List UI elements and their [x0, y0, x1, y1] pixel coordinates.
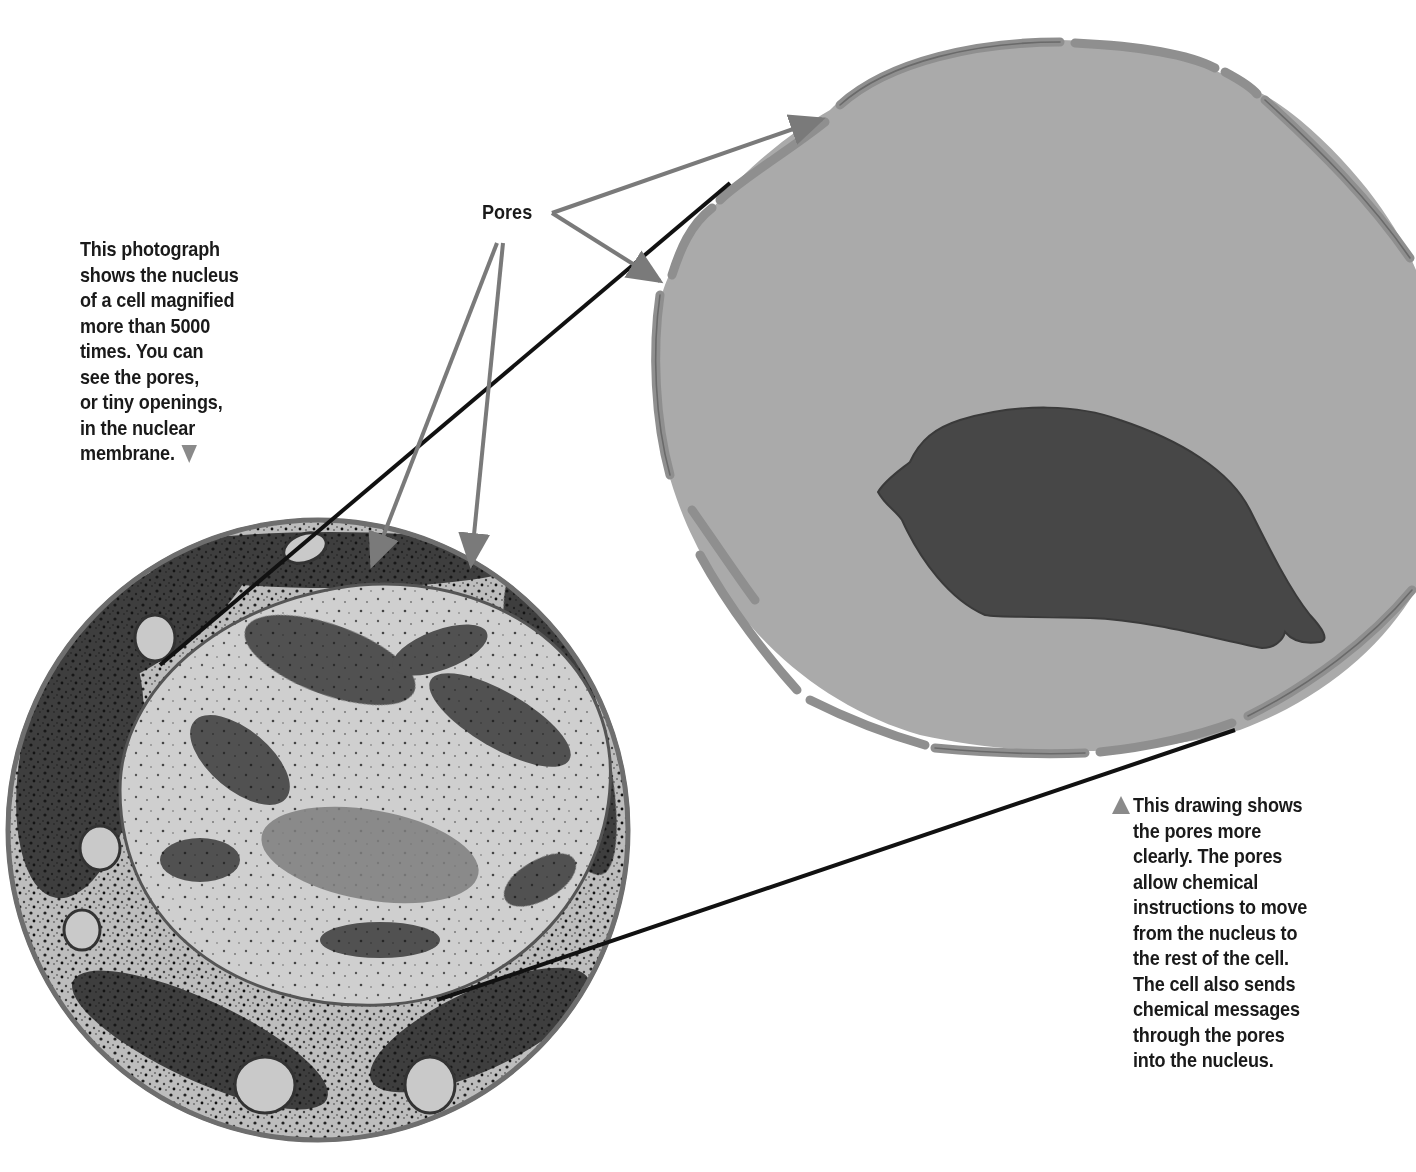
caption-line: of a cell magnified	[80, 287, 239, 313]
caption-line: from the nucleus to	[1133, 920, 1307, 946]
caption-line: more than 5000	[80, 313, 239, 339]
caption-line: This drawing shows	[1133, 792, 1307, 818]
pores-label: Pores	[482, 200, 532, 224]
caption-line: The cell also sends	[1133, 971, 1307, 997]
caption-line: or tiny openings,	[80, 389, 239, 415]
caption-line: This photograph	[80, 236, 239, 262]
caption-line: the pores more	[1133, 818, 1307, 844]
photo-caption: This photograph shows the nucleus of a c…	[80, 236, 239, 466]
caption-text: membrane.	[80, 441, 175, 464]
caption-line: through the pores	[1133, 1022, 1307, 1048]
caption-line: the rest of the cell.	[1133, 945, 1307, 971]
triangle-down-icon	[182, 445, 197, 463]
caption-line: shows the nucleus	[80, 262, 239, 288]
caption-line: chemical messages	[1133, 996, 1307, 1022]
caption-line: clearly. The pores	[1133, 843, 1307, 869]
caption-line: allow chemical	[1133, 869, 1307, 895]
drawing-caption: This drawing shows the pores more clearl…	[1133, 792, 1307, 1073]
nucleus-drawing	[654, 40, 1416, 754]
caption-line: times. You can	[80, 338, 239, 364]
caption-line: see the pores,	[80, 364, 239, 390]
micrograph-photo	[0, 510, 640, 1150]
caption-line-last: membrane.	[80, 440, 239, 466]
caption-line: into the nucleus.	[1133, 1047, 1307, 1073]
caption-line: instructions to move	[1133, 894, 1307, 920]
triangle-up-icon	[1112, 796, 1130, 814]
caption-line: in the nuclear	[80, 415, 239, 441]
nucleus-body	[654, 40, 1416, 751]
